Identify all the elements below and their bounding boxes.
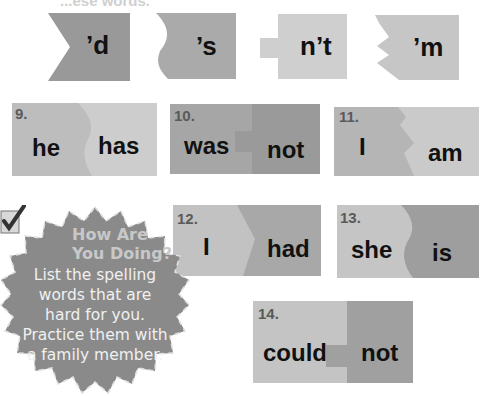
checkbox-check-icon	[0, 205, 26, 235]
exercise-14[interactable]: 14. could not	[253, 301, 413, 383]
suffix-piece-nt[interactable]: n’t	[260, 14, 347, 79]
instruction-heading: ...ese words.	[60, 0, 150, 9]
exercise-number: 9.	[15, 105, 28, 122]
suffix-piece-d[interactable]: ’d	[48, 13, 130, 81]
left-word: could	[263, 339, 327, 367]
right-word: had	[267, 235, 310, 263]
right-word: is	[432, 239, 452, 267]
left-word: I	[203, 233, 210, 261]
badge-body-line: Practice them with	[12, 325, 178, 345]
exercise-11[interactable]: 11. I am	[334, 107, 479, 176]
right-word: not	[361, 339, 398, 367]
exercise-number: 11.	[339, 108, 359, 125]
badge-body-line: hard for you.	[12, 305, 178, 325]
right-word: am	[428, 139, 463, 167]
suffix-piece-m[interactable]: ’m	[375, 15, 459, 80]
badge-title-line: How Are	[72, 225, 172, 244]
left-word: I	[359, 133, 366, 161]
badge-body: List the spelling words that are hard fo…	[12, 265, 178, 365]
exercise-number: 10.	[174, 107, 195, 124]
badge-title: How Are You Doing?	[72, 225, 172, 263]
suffix-label: ’s	[196, 31, 217, 62]
right-word: not	[267, 136, 304, 164]
how-are-you-doing-badge: How Are You Doing? List the spelling wor…	[0, 205, 190, 396]
exercise-number: 13.	[340, 209, 361, 226]
badge-body-line: words that are	[12, 285, 178, 305]
exercise-10[interactable]: 10. was not	[170, 104, 320, 174]
exercise-number: 14.	[258, 305, 279, 322]
exercise-13[interactable]: 13. she is	[337, 205, 479, 278]
suffix-piece-s[interactable]: ’s	[156, 13, 236, 79]
right-word: has	[98, 132, 139, 160]
suffix-label: n’t	[300, 31, 332, 62]
left-word: he	[32, 134, 60, 162]
suffix-label: ’m	[413, 32, 443, 63]
left-word: she	[351, 236, 392, 264]
badge-body-line: a family member.	[12, 345, 178, 365]
exercise-12[interactable]: 12. I had	[173, 205, 321, 276]
left-word: was	[184, 132, 229, 160]
suffix-label: ’d	[86, 30, 109, 61]
badge-body-line: List the spelling	[12, 265, 178, 285]
exercise-9[interactable]: 9. he has	[12, 103, 157, 176]
badge-title-line: You Doing?	[72, 244, 172, 263]
